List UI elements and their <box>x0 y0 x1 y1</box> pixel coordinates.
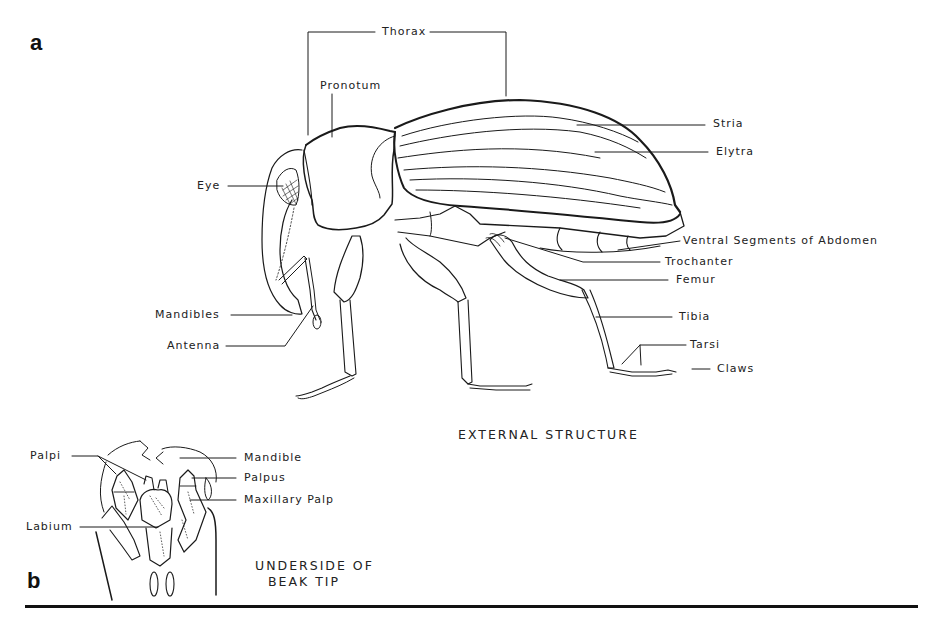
label-tibia: Tibia <box>679 311 710 323</box>
beak-tip-drawing <box>96 441 216 600</box>
label-labium: Labium <box>26 521 73 533</box>
label-trochanter: Trochanter <box>665 256 733 268</box>
figure-canvas: a b Thorax Pronotum Stria Elytra Eye Ven… <box>0 0 925 624</box>
caption-underside-line1: UNDERSIDE OF <box>255 558 374 573</box>
label-palpus: Palpus <box>244 472 286 484</box>
label-ventral-segments: Ventral Segments of Abdomen <box>683 235 878 247</box>
label-eye: Eye <box>197 180 220 192</box>
label-mandible: Mandible <box>244 452 302 464</box>
label-pronotum: Pronotum <box>320 80 381 92</box>
label-claws: Claws <box>717 363 754 375</box>
label-antenna: Antenna <box>167 340 220 352</box>
bottom-rule-divider <box>25 605 918 608</box>
label-elytra: Elytra <box>716 146 754 158</box>
label-palpi: Palpi <box>30 450 61 462</box>
label-thorax: Thorax <box>382 26 426 38</box>
label-leader-lines <box>226 32 710 369</box>
beetle-illustration <box>0 0 925 624</box>
panel-b-letter: b <box>27 568 40 594</box>
caption-external-structure: EXTERNAL STRUCTURE <box>458 427 639 442</box>
label-femur: Femur <box>676 274 716 286</box>
label-stria: Stria <box>713 118 744 130</box>
label-maxillary-palp: Maxillary Palp <box>244 494 334 506</box>
label-tarsi: Tarsi <box>690 339 720 351</box>
panel-a-letter: a <box>30 30 42 56</box>
caption-underside-line2: BEAK TIP <box>268 574 340 589</box>
label-mandibles: Mandibles <box>155 309 220 321</box>
